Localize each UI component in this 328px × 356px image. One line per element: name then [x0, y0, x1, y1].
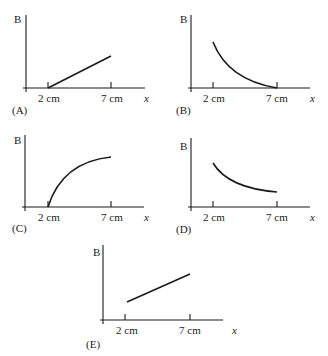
tick-label-2cm: 2 cm — [38, 92, 60, 104]
x-axis-label: x — [309, 92, 315, 104]
tick-label-7cm: 7 cm — [179, 324, 201, 336]
x-axis-label: x — [309, 211, 315, 223]
tick-label-2cm: 2 cm — [203, 92, 225, 104]
y-axis-label: B — [14, 134, 21, 146]
curve-e — [127, 274, 190, 302]
x-axis-label: x — [231, 324, 237, 336]
curve-c — [48, 157, 111, 207]
panel-tag: (A) — [12, 104, 28, 117]
panel-c: B 2 cm 7 cm x (C) — [12, 134, 149, 235]
panel-tag: (C) — [12, 222, 27, 235]
y-axis-label: B — [93, 246, 100, 258]
x-axis-label: x — [143, 92, 149, 104]
panel-d: B 2 cm 7 cm x (D) — [176, 138, 315, 236]
panel-b: B 2 cm 7 cm x (B) — [176, 13, 315, 117]
panel-e: B 2 cm 7 cm x (E) — [86, 245, 237, 351]
tick-label-7cm: 7 cm — [101, 211, 123, 223]
curve-b — [213, 42, 277, 88]
graph-figure: B 2 cm 7 cm x (A) B 2 cm 7 cm x (B) B 2 … — [0, 0, 328, 356]
tick-label-2cm: 2 cm — [116, 324, 138, 336]
y-axis-label: B — [180, 13, 187, 25]
panel-tag: (E) — [86, 338, 100, 351]
panel-a: B 2 cm 7 cm x (A) — [12, 13, 149, 117]
y-axis-label: B — [14, 13, 21, 25]
y-axis-label: B — [180, 140, 187, 152]
curve-a — [48, 56, 111, 88]
tick-label-2cm: 2 cm — [38, 211, 60, 223]
tick-label-2cm: 2 cm — [203, 211, 225, 223]
tick-label-7cm: 7 cm — [266, 92, 288, 104]
tick-label-7cm: 7 cm — [101, 92, 123, 104]
curve-d — [213, 163, 277, 192]
x-axis-label: x — [143, 211, 149, 223]
panel-tag: (B) — [176, 104, 191, 117]
panel-tag: (D) — [176, 223, 192, 236]
tick-label-7cm: 7 cm — [266, 211, 288, 223]
